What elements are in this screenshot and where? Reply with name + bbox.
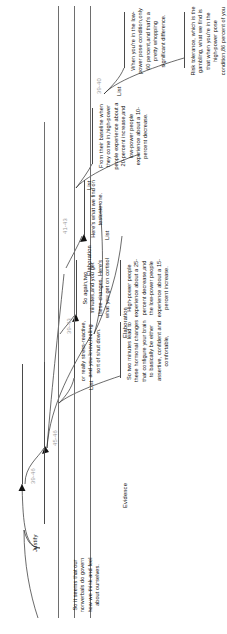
- edu-42: From their baseline when they come in,hi…: [98, 102, 150, 170]
- edu-43: So again,two minutes,and you get these c…: [82, 256, 112, 320]
- edu-40: When you're in the low-power pose condit…: [130, 8, 167, 74]
- edu-44: High-power people experience about a 25-…: [126, 256, 170, 320]
- rst-edu-layer: So it seems that our nonverbals do gover…: [0, 0, 227, 634]
- edu-root-text: So it seems that our nonverbals do gover…: [72, 554, 102, 616]
- edu-46: or really stress-reactive, and you know,…: [80, 320, 102, 382]
- rst-diagram-stage: 39-46 45-46 39-43 41-43 39-40 Justify Ev…: [0, 0, 227, 634]
- edu-45: So two minutes lead to these hormonal ch…: [126, 318, 170, 384]
- edu-41: Here's what we find on testosterone.: [90, 178, 105, 240]
- edu-39: Risk tolerance, which is the gambling, w…: [190, 6, 227, 76]
